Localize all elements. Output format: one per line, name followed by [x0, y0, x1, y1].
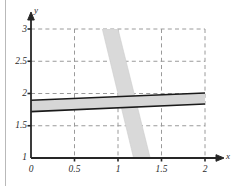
y-axis-label: y — [34, 6, 38, 15]
ytick-label-3: 3 — [5, 25, 27, 35]
steep-band-fill — [102, 29, 150, 158]
figure-canvas: 3 2.5 2 1.5 1 0 0.5 1 1.5 2 y x — [0, 0, 237, 186]
x-axis-arrowhead — [216, 155, 224, 162]
xtick-label-0: 0 — [21, 165, 41, 175]
ytick-label-1: 1 — [5, 153, 27, 163]
ytick-label-1.5: 1.5 — [0, 121, 27, 131]
xtick-label-1: 1 — [108, 165, 128, 175]
xtick-label-1.5: 1.5 — [148, 165, 175, 175]
plot-area — [0, 0, 237, 186]
x-axis-label: x — [226, 152, 230, 161]
xtick-label-2: 2 — [195, 165, 215, 175]
xtick-label-0.5: 0.5 — [61, 165, 88, 175]
steep-band — [102, 29, 150, 158]
ytick-label-2: 2 — [5, 89, 27, 99]
ytick-label-2.5: 2.5 — [0, 57, 27, 67]
